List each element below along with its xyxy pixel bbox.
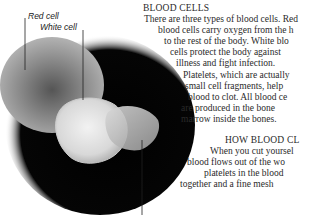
paragraph-line: to the rest of the body. White blo xyxy=(164,36,289,47)
paragraph-line: Platelets, which are actually xyxy=(183,70,290,81)
paragraph-line: When you cut yoursel xyxy=(210,146,294,157)
paragraph-line: marrow inside the bones. xyxy=(181,114,277,125)
paragraph-line: blood cells carry oxygen from the h xyxy=(158,25,294,36)
paragraph-line: small cell fragments, help xyxy=(185,81,283,92)
paragraph-line: are produced in the bone xyxy=(181,103,275,114)
paragraph-line: cells protect the body against xyxy=(170,47,281,58)
blood-cells-heading: BLOOD CELLS xyxy=(143,3,209,13)
paragraph-line: blood flows out of the wo xyxy=(187,157,285,168)
red-cell-label: Red cell xyxy=(28,11,59,21)
paragraph-line: platelets in the blood xyxy=(204,168,283,179)
white-cell-label: White cell xyxy=(40,22,77,32)
paragraph-line: blood to clot. All blood ce xyxy=(188,92,287,103)
how-blood-clots-heading: HOW BLOOD CL xyxy=(225,135,300,145)
paragraph-line: There are three types of blood cells. Re… xyxy=(144,14,298,25)
paragraph-line: illness and fight infection. xyxy=(176,58,275,69)
paragraph-line: together and a fine mesh xyxy=(180,179,273,190)
